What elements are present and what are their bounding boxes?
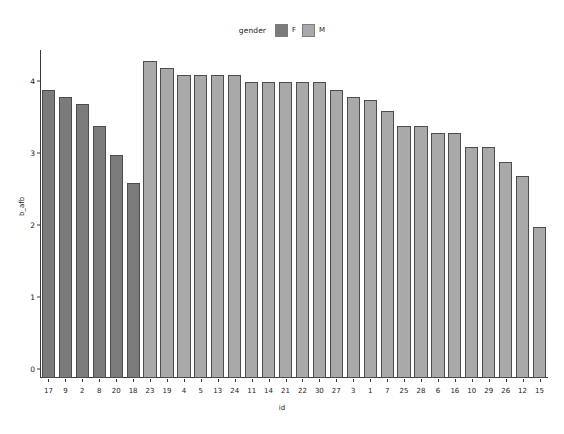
bar-slot: 28 xyxy=(414,50,427,378)
bar[interactable] xyxy=(127,183,140,378)
bar-slot: 22 xyxy=(296,50,309,378)
bar-slot: 14 xyxy=(262,50,275,378)
y-axis-tick-label: 4 xyxy=(30,76,35,85)
bar[interactable] xyxy=(143,61,156,378)
x-axis-tick-mark xyxy=(370,379,371,382)
x-axis-tick-label: 15 xyxy=(535,387,544,395)
bar-slot: 30 xyxy=(313,50,326,378)
bar-slot: 29 xyxy=(482,50,495,378)
x-axis-tick-label: 16 xyxy=(450,387,459,395)
legend-swatch-f xyxy=(275,24,288,37)
bar[interactable] xyxy=(347,97,360,378)
x-axis-tick-mark xyxy=(404,379,405,382)
bar-slot: 24 xyxy=(228,50,241,378)
y-axis-tick-label: 3 xyxy=(30,148,35,157)
bar[interactable] xyxy=(93,126,106,378)
plot-panel: 01234 1792820182319451324111421223027317… xyxy=(40,50,548,378)
bar[interactable] xyxy=(330,90,343,378)
bar[interactable] xyxy=(364,100,377,378)
legend-label-f: F xyxy=(292,26,296,34)
y-axis-tick: 2 xyxy=(30,220,40,229)
bar[interactable] xyxy=(177,75,190,378)
x-axis-tick-label: 1 xyxy=(368,387,372,395)
x-axis-tick-mark xyxy=(540,379,541,382)
bar[interactable] xyxy=(42,90,55,378)
bar[interactable] xyxy=(59,97,72,378)
x-axis-tick-mark xyxy=(184,379,185,382)
bar-slot: 10 xyxy=(465,50,478,378)
x-axis-tick-mark xyxy=(269,379,270,382)
bar-slot: 5 xyxy=(194,50,207,378)
bar[interactable] xyxy=(262,82,275,378)
x-axis-tick-mark xyxy=(523,379,524,382)
bar-slot: 15 xyxy=(533,50,546,378)
x-axis-tick-mark xyxy=(133,379,134,382)
x-axis-tick-mark xyxy=(438,379,439,382)
bar[interactable] xyxy=(279,82,292,378)
bar[interactable] xyxy=(110,155,123,378)
bar-slot: 9 xyxy=(59,50,72,378)
bar[interactable] xyxy=(465,147,478,378)
bar[interactable] xyxy=(381,111,394,378)
y-axis-tick-label: 1 xyxy=(30,292,35,301)
x-axis-tick-mark xyxy=(353,379,354,382)
x-axis-tick-mark xyxy=(421,379,422,382)
x-axis-tick-mark xyxy=(150,379,151,382)
bar-slot: 7 xyxy=(381,50,394,378)
x-axis-tick-mark xyxy=(319,379,320,382)
bar[interactable] xyxy=(245,82,258,378)
bar[interactable] xyxy=(76,104,89,378)
x-axis-tick-label: 4 xyxy=(182,387,186,395)
x-axis-tick-label: 12 xyxy=(518,387,527,395)
x-axis-tick-label: 29 xyxy=(484,387,493,395)
bar-slot: 27 xyxy=(330,50,343,378)
y-axis-tick-label: 2 xyxy=(30,220,35,229)
x-axis-tick-label: 8 xyxy=(97,387,101,395)
bar-slot: 6 xyxy=(431,50,444,378)
bar-slot: 17 xyxy=(42,50,55,378)
x-axis-tick-label: 9 xyxy=(63,387,67,395)
bar[interactable] xyxy=(397,126,410,378)
bar[interactable] xyxy=(482,147,495,378)
bar[interactable] xyxy=(194,75,207,378)
x-axis-tick-label: 21 xyxy=(281,387,290,395)
x-axis-tick-label: 22 xyxy=(298,387,307,395)
legend-label-m: M xyxy=(319,26,325,34)
bar[interactable] xyxy=(414,126,427,378)
y-axis-tick: 0 xyxy=(30,365,40,374)
x-axis-tick-mark xyxy=(387,379,388,382)
x-axis-tick-label: 17 xyxy=(44,387,53,395)
x-axis-tick-mark xyxy=(252,379,253,382)
x-axis-tick-label: 18 xyxy=(129,387,138,395)
x-axis-tick-mark xyxy=(489,379,490,382)
x-axis-tick-mark xyxy=(235,379,236,382)
bar-slot: 12 xyxy=(516,50,529,378)
bar[interactable] xyxy=(499,162,512,378)
bar-slot: 2 xyxy=(76,50,89,378)
bar-slot: 11 xyxy=(245,50,258,378)
bar[interactable] xyxy=(533,227,546,378)
x-axis-tick-label: 19 xyxy=(163,387,172,395)
legend: gender F M xyxy=(0,22,564,38)
legend-swatch-m xyxy=(302,24,315,37)
x-axis-tick-label: 27 xyxy=(332,387,341,395)
bar[interactable] xyxy=(516,176,529,378)
bar[interactable] xyxy=(313,82,326,378)
bar[interactable] xyxy=(448,133,461,378)
x-axis-tick-mark xyxy=(336,379,337,382)
x-axis-tick-mark xyxy=(286,379,287,382)
bar-slot: 20 xyxy=(110,50,123,378)
bar[interactable] xyxy=(431,133,444,378)
x-axis-tick-mark xyxy=(218,379,219,382)
x-axis-tick-label: 11 xyxy=(247,387,256,395)
bar-slot: 3 xyxy=(347,50,360,378)
x-axis-tick-mark xyxy=(506,379,507,382)
x-axis-tick-mark xyxy=(65,379,66,382)
bar-slot: 1 xyxy=(364,50,377,378)
bar-slot: 23 xyxy=(143,50,156,378)
bar[interactable] xyxy=(160,68,173,378)
x-axis-tick-label: 28 xyxy=(417,387,426,395)
bar[interactable] xyxy=(211,75,224,378)
bar[interactable] xyxy=(228,75,241,378)
bar[interactable] xyxy=(296,82,309,378)
